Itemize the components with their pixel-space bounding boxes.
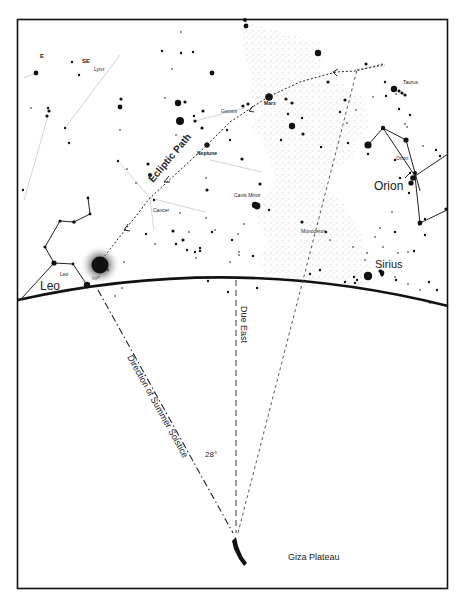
star bbox=[329, 239, 331, 241]
star bbox=[366, 252, 368, 254]
star bbox=[374, 236, 376, 238]
star bbox=[45, 114, 48, 117]
star bbox=[385, 95, 387, 97]
star bbox=[175, 100, 181, 106]
star bbox=[71, 61, 73, 63]
star bbox=[171, 229, 174, 232]
star bbox=[78, 74, 80, 76]
star bbox=[356, 279, 358, 281]
star bbox=[364, 259, 366, 261]
star bbox=[407, 251, 409, 253]
orion-large-label: Orion bbox=[374, 179, 403, 193]
mars-label: Mars bbox=[264, 100, 276, 106]
star bbox=[309, 273, 311, 275]
star bbox=[347, 142, 349, 144]
star bbox=[210, 71, 215, 76]
star bbox=[237, 233, 239, 235]
star bbox=[252, 255, 254, 257]
star bbox=[397, 252, 399, 254]
star bbox=[179, 212, 181, 214]
star bbox=[231, 239, 233, 241]
star bbox=[243, 223, 245, 225]
sirius-label: Sirius bbox=[375, 258, 403, 270]
star bbox=[229, 139, 231, 141]
star bbox=[192, 51, 194, 53]
star bbox=[34, 71, 39, 76]
star bbox=[64, 127, 66, 129]
star bbox=[22, 189, 24, 191]
compass-e-label: E bbox=[40, 53, 44, 59]
star bbox=[382, 246, 384, 248]
star bbox=[164, 97, 166, 99]
star bbox=[346, 122, 348, 124]
star bbox=[397, 89, 400, 92]
star bbox=[193, 119, 196, 122]
star bbox=[180, 52, 182, 54]
star bbox=[400, 91, 403, 94]
star bbox=[256, 287, 258, 289]
star bbox=[436, 289, 438, 291]
star bbox=[238, 251, 240, 253]
star bbox=[354, 282, 356, 284]
star bbox=[364, 62, 367, 65]
star bbox=[372, 96, 374, 98]
compass-se-label: SE bbox=[82, 58, 90, 64]
star bbox=[320, 146, 322, 148]
star bbox=[380, 271, 385, 276]
star-chart-diagram: E SE Lynx Gemini Mars Taurus Neptune Ecl… bbox=[0, 0, 465, 601]
star bbox=[413, 250, 415, 252]
procyon-star bbox=[254, 203, 261, 210]
star bbox=[394, 276, 396, 278]
star bbox=[175, 243, 177, 245]
giza-plateau-label: Giza Plateau bbox=[288, 552, 340, 562]
star bbox=[407, 283, 409, 285]
star bbox=[238, 254, 240, 256]
star bbox=[154, 243, 156, 245]
star bbox=[424, 234, 426, 236]
leo-large-label: Leo bbox=[40, 279, 60, 293]
cancer-label: Cancer bbox=[153, 207, 169, 213]
star bbox=[47, 107, 49, 109]
star bbox=[326, 80, 329, 83]
star bbox=[406, 126, 408, 128]
star bbox=[301, 132, 304, 135]
star bbox=[194, 251, 196, 253]
star bbox=[355, 109, 357, 111]
star bbox=[226, 129, 228, 131]
star bbox=[384, 81, 386, 83]
star bbox=[258, 182, 261, 185]
orion-small-label: Orion bbox=[396, 155, 408, 161]
star bbox=[395, 93, 397, 95]
star bbox=[315, 50, 321, 56]
star bbox=[244, 24, 249, 29]
star bbox=[284, 97, 287, 100]
star bbox=[398, 108, 400, 110]
star bbox=[428, 281, 430, 283]
star bbox=[344, 281, 346, 283]
star bbox=[193, 115, 195, 117]
star bbox=[205, 217, 207, 219]
star bbox=[403, 93, 406, 96]
star bbox=[241, 104, 244, 107]
star bbox=[188, 231, 190, 233]
star bbox=[229, 261, 231, 263]
star bbox=[200, 126, 203, 129]
star bbox=[439, 155, 441, 157]
star bbox=[240, 157, 243, 160]
star bbox=[146, 162, 149, 165]
star bbox=[339, 111, 341, 113]
star bbox=[409, 172, 411, 174]
star bbox=[195, 257, 197, 259]
star bbox=[394, 231, 396, 233]
star bbox=[246, 102, 249, 105]
star bbox=[201, 109, 204, 112]
star bbox=[211, 231, 213, 233]
star bbox=[153, 199, 155, 201]
star bbox=[114, 295, 116, 297]
star bbox=[289, 123, 295, 129]
star bbox=[395, 279, 397, 281]
due-east-label: Due East bbox=[239, 306, 249, 344]
star bbox=[119, 97, 122, 100]
star bbox=[422, 145, 424, 147]
sun-icon bbox=[92, 257, 109, 274]
